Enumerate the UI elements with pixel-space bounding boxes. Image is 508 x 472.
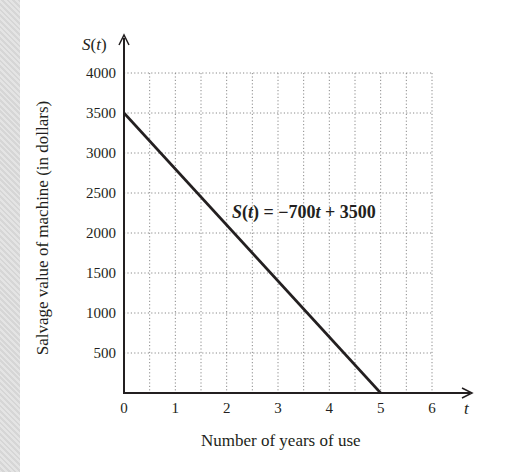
grid: [124, 73, 432, 393]
x-tick-label: 2: [223, 400, 231, 416]
y-tick-labels: 5001000150020002500300035004000: [86, 65, 116, 361]
x-tick-label: 0: [120, 400, 128, 416]
x-tick-label: 4: [326, 400, 334, 416]
x-tick-label: 5: [377, 400, 385, 416]
equation-annotation: S(t) = −700t + 3500: [232, 202, 376, 223]
x-axis-symbol: t: [464, 399, 470, 418]
x-tick-label: 3: [274, 400, 282, 416]
y-tick-label: 1500: [86, 265, 116, 281]
x-tick-label: 1: [172, 400, 180, 416]
y-tick-label: 2000: [86, 225, 116, 241]
y-axis-symbol: S(t): [82, 35, 107, 54]
x-axis-title: Number of years of use: [201, 431, 361, 450]
x-tick-labels: 0123456: [120, 400, 436, 416]
y-tick-label: 500: [94, 345, 117, 361]
x-tick-label: 6: [428, 400, 436, 416]
y-tick-label: 4000: [86, 65, 116, 81]
chart: 5001000150020002500300035004000 0123456 …: [0, 0, 508, 472]
y-tick-label: 2500: [86, 185, 116, 201]
y-axis-title: Salvage value of machine (in dollars): [33, 101, 52, 355]
y-tick-label: 1000: [86, 305, 116, 321]
y-tick-label: 3000: [86, 145, 116, 161]
y-tick-label: 3500: [86, 105, 116, 121]
